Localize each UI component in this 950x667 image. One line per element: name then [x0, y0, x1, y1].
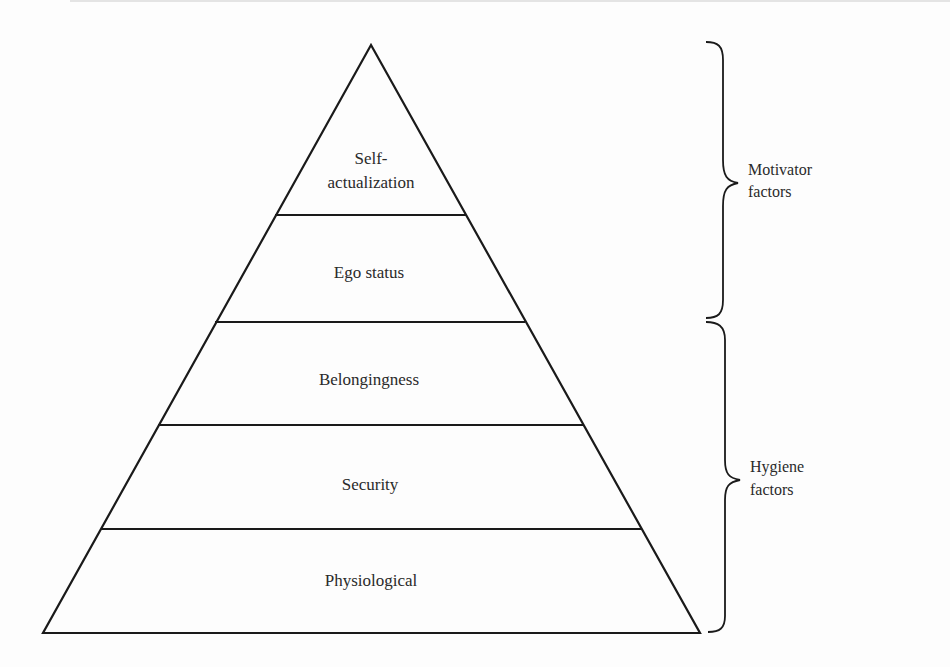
- level-security: Security: [342, 475, 399, 494]
- motivator-brace: [706, 42, 738, 318]
- motivator-label-line1: Motivator: [748, 161, 813, 178]
- hygiene-label-line2: factors: [750, 481, 794, 498]
- level-physiological: Physiological: [325, 571, 418, 590]
- motivator-label-line2: factors: [748, 183, 792, 200]
- hygiene-label-line1: Hygiene: [750, 458, 804, 476]
- hygiene-brace: [706, 322, 740, 632]
- level-self-actualization-line1: Self-: [354, 149, 387, 168]
- pyramid-outline: [43, 45, 700, 633]
- level-belongingness: Belongingness: [319, 370, 419, 389]
- level-self-actualization-line2: actualization: [328, 173, 415, 192]
- level-ego-status: Ego status: [334, 263, 404, 282]
